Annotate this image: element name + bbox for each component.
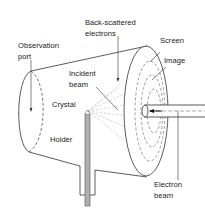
label-back-scattered: Back-scattered <box>85 18 136 27</box>
label-electron-2: beam <box>154 191 173 200</box>
leed-diagram: Back-scattered electrons Observation por… <box>0 0 205 218</box>
label-image: Image <box>164 56 185 65</box>
label-electron: Electron <box>154 180 182 189</box>
label-back-scattered-2: electrons <box>85 29 116 38</box>
label-screen: Screen <box>160 36 184 45</box>
crystal-holder <box>85 110 90 206</box>
label-observation: Observation <box>18 41 59 50</box>
label-incident: Incident <box>69 69 96 78</box>
label-crystal: Crystal <box>52 100 76 109</box>
label-observation-2: port <box>18 52 32 61</box>
label-incident-2: beam <box>69 80 88 89</box>
label-holder: Holder <box>50 135 73 144</box>
electron-gun <box>142 105 205 117</box>
